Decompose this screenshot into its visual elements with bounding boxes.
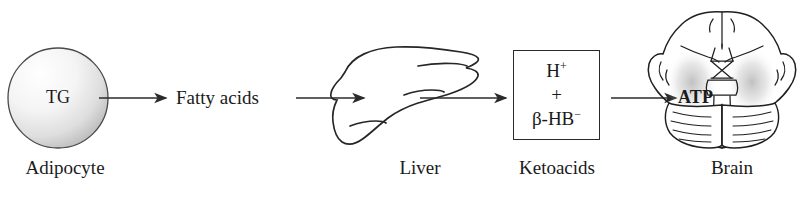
caption-adipocyte: Adipocyte (0, 158, 130, 177)
caption-liver: Liver (360, 158, 480, 177)
metabolic-pathway-diagram: TG Fatty acids H+ + β-HB− ATP Adipocyte … (0, 0, 803, 199)
ketoacids-box: H+ + β-HB− (513, 50, 600, 140)
brain-inner-label: ATP (678, 88, 713, 106)
liver-shape (331, 47, 479, 144)
ketoacid-formula-line-2: + (551, 83, 562, 107)
adipocyte-inner-label: TG (8, 88, 108, 106)
brain-shape (648, 12, 795, 148)
caption-ketoacids: Ketoacids (496, 158, 618, 177)
fatty-acids-label: Fatty acids (176, 88, 259, 107)
ketoacid-formula-line-3: β-HB− (532, 107, 581, 131)
caption-brain: Brain (672, 158, 792, 177)
ketoacid-formula-line-1: H+ (546, 59, 567, 83)
